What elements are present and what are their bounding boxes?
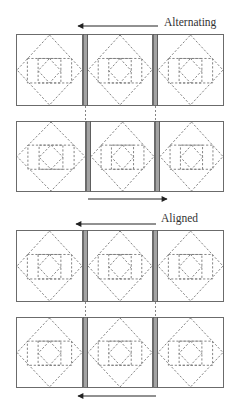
inner-square <box>180 145 202 169</box>
inner-diamond <box>39 145 63 169</box>
inner-square <box>109 254 131 278</box>
outer-diamond <box>158 231 223 301</box>
inner-square <box>111 145 133 169</box>
block-outline <box>158 318 224 388</box>
inner-diamond <box>179 341 202 365</box>
outer-diamond <box>17 231 82 301</box>
block-row-aligned-2 <box>17 318 224 388</box>
outer-diamond <box>160 122 223 191</box>
sashing-strip-1 <box>84 318 88 388</box>
block-rows <box>17 35 224 388</box>
sashing-strip-1 <box>84 35 88 106</box>
inner-square <box>179 58 202 82</box>
sashing-strip-1 <box>87 122 91 192</box>
inner-square <box>109 58 131 82</box>
inner-diamond <box>179 254 202 278</box>
outer-diamond <box>17 318 82 387</box>
inner-diamond <box>109 254 131 278</box>
band-rectangle <box>27 58 71 82</box>
block-outline <box>158 231 224 302</box>
block-outline <box>91 122 155 192</box>
block-outline <box>17 318 83 388</box>
band-rectangle <box>98 341 142 365</box>
outer-diamond <box>91 122 154 191</box>
inner-square <box>38 58 61 82</box>
inner-diamond <box>38 341 61 365</box>
block-outline <box>17 35 83 106</box>
band-rectangle <box>168 254 212 278</box>
block-outline <box>88 35 153 106</box>
outer-diamond <box>17 35 82 105</box>
sashing-strip-2 <box>154 231 158 302</box>
block-outline <box>17 231 83 302</box>
outer-diamond <box>88 231 152 301</box>
outer-diamond <box>88 35 152 105</box>
label-alternating: Alternating <box>164 16 216 28</box>
block-outline <box>158 35 224 106</box>
sashing-strip-2 <box>154 35 158 106</box>
sashing-strip-2 <box>156 122 160 192</box>
inner-diamond <box>180 145 202 169</box>
block-outline <box>88 318 153 388</box>
inner-diamond <box>38 254 61 278</box>
quilt-sashing-diagram <box>0 0 241 405</box>
block-row-alternating-2 <box>17 122 224 192</box>
block-outline <box>88 231 153 302</box>
inner-square <box>38 254 61 278</box>
block-outline <box>17 122 86 192</box>
sashing-strip-1 <box>84 231 88 302</box>
block-row-alternating-1 <box>17 35 224 106</box>
inner-diamond <box>109 58 131 82</box>
block-outline <box>160 122 224 192</box>
inner-square <box>109 341 131 365</box>
inner-square <box>179 254 202 278</box>
inner-diamond <box>109 341 131 365</box>
outer-diamond <box>158 318 223 387</box>
inner-square <box>39 145 63 169</box>
inner-square <box>179 341 202 365</box>
band-rectangle <box>27 341 71 365</box>
band-rectangle <box>101 145 144 169</box>
block-row-aligned-1 <box>17 231 224 302</box>
band-rectangle <box>27 254 71 278</box>
sashing-alignment-connectors <box>86 106 156 317</box>
inner-diamond <box>179 58 202 82</box>
band-rectangle <box>168 58 212 82</box>
band-rectangle <box>98 58 142 82</box>
label-aligned: Aligned <box>161 212 198 224</box>
band-rectangle <box>170 145 213 169</box>
inner-square <box>38 341 61 365</box>
outer-diamond <box>88 318 152 387</box>
inner-diamond <box>38 58 61 82</box>
inner-diamond <box>111 145 133 169</box>
outer-diamond <box>158 35 223 105</box>
outer-diamond <box>17 122 85 191</box>
band-rectangle <box>168 341 212 365</box>
band-rectangle <box>28 145 74 169</box>
band-rectangle <box>98 254 142 278</box>
sashing-strip-2 <box>154 318 158 388</box>
